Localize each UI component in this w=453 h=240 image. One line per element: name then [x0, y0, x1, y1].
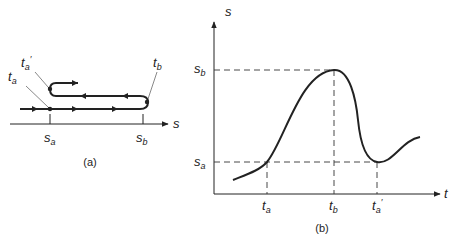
- panel-a-axis-label: s: [173, 116, 180, 131]
- curve-s-of-t: [233, 70, 420, 180]
- arrow-right-icon: [72, 80, 78, 86]
- label-tb: tb: [153, 55, 162, 72]
- y-axis-label: s: [225, 4, 232, 19]
- caption-b: (b): [315, 222, 328, 234]
- x-tick-tb: tb: [329, 198, 338, 215]
- tick-label-sb: sb: [136, 130, 148, 147]
- figure: ta ta′ tb s sa sb (a) s t sb sa ta tb ta…: [0, 0, 453, 240]
- tick-label-sa: sa: [44, 130, 56, 147]
- point-ta-prime: [48, 87, 52, 91]
- arrow-right-icon: [32, 106, 38, 112]
- leader-tb: [148, 72, 157, 99]
- caption-a: (a): [83, 156, 96, 168]
- panel-b: s t sb sa ta tb ta′ (b): [194, 4, 449, 234]
- leader-ta-prime: [35, 72, 48, 87]
- panel-a: ta ta′ tb s sa sb (a): [8, 54, 180, 168]
- leader-ta: [26, 86, 48, 107]
- y-tick-sb: sb: [194, 61, 206, 78]
- point-ta: [48, 107, 52, 111]
- arrow-left-icon: [122, 93, 128, 99]
- label-ta-prime: ta′: [21, 54, 32, 72]
- label-ta: ta: [8, 69, 17, 86]
- x-tick-ta-prime: ta′: [372, 197, 383, 215]
- x-tick-ta: ta: [262, 198, 271, 215]
- arrow-left-icon: [80, 93, 86, 99]
- arrow-right-icon: [112, 106, 118, 112]
- point-tb: [145, 100, 149, 104]
- y-tick-sa: sa: [194, 154, 206, 171]
- arrow-right-icon: [72, 106, 78, 112]
- x-axis-label: t: [444, 186, 449, 201]
